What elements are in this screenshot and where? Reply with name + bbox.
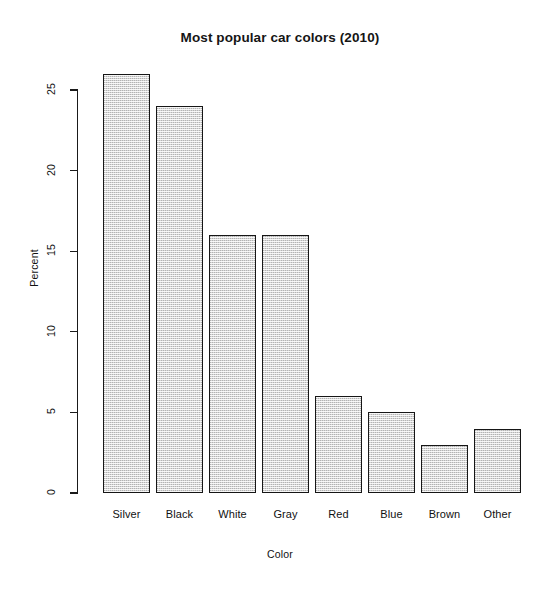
x-axis-title: Color [0, 548, 560, 560]
bar-black[interactable] [156, 106, 203, 493]
bar-brown[interactable] [421, 445, 468, 493]
bar-series [0, 0, 560, 590]
bar-gray[interactable] [262, 235, 309, 493]
bar-chart-figure: Most popular car colors (2010) 051015202… [0, 0, 560, 590]
bar-red[interactable] [315, 396, 362, 493]
bar-other[interactable] [474, 429, 521, 493]
bar-blue[interactable] [368, 412, 415, 493]
x-axis-tick-label-other: Other [462, 508, 533, 520]
bar-white[interactable] [209, 235, 256, 493]
bar-silver[interactable] [103, 74, 150, 493]
